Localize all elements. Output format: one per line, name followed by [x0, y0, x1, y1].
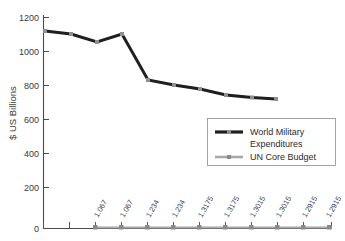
un-data-point — [171, 225, 176, 230]
x-tick-label-7: 1.3015 — [248, 195, 267, 219]
legend-marker-military — [227, 130, 231, 134]
military-data-point — [224, 93, 228, 97]
military-data-point — [120, 32, 124, 36]
y-tick-label-400: 400 — [24, 149, 39, 159]
un-data-point — [249, 225, 254, 230]
y-tick-marks — [44, 18, 50, 229]
un-data-point — [197, 225, 202, 230]
military-data-point — [43, 29, 47, 33]
un-data-point — [327, 225, 332, 230]
x-tick-label-8: 1.3015 — [274, 195, 293, 219]
un-data-point — [301, 225, 306, 230]
series-world-military-expenditures — [43, 29, 278, 101]
y-tick-label-0: 0 — [34, 224, 39, 234]
x-tick-label-3: 1.234 — [144, 198, 161, 219]
un-data-point — [119, 225, 124, 230]
legend-label-military-line2: Expenditures — [250, 139, 303, 149]
line-chart-plot: $ US Billions 1200 1000 800 600 400 200 … — [0, 0, 345, 241]
military-data-point — [198, 87, 202, 91]
x-tick-labels: 1.067 1.067 1.234 1.234 1.3175 1.3175 1.… — [92, 195, 343, 219]
x-tick-label-9: 1.2915 — [300, 195, 319, 219]
y-axis-label: $ US Billions — [7, 86, 18, 140]
military-data-point — [250, 96, 254, 100]
un-data-point — [223, 225, 228, 230]
military-data-point — [274, 97, 278, 101]
chart-legend[interactable]: World Military Expenditures UN Core Budg… — [208, 119, 336, 166]
y-tick-label-200: 200 — [24, 183, 39, 193]
x-tick-label-5: 1.3175 — [196, 195, 215, 219]
un-data-point — [145, 225, 150, 230]
y-tick-label-800: 800 — [24, 81, 39, 91]
x-tick-label-4: 1.234 — [170, 198, 187, 219]
legend-label-un-core-budget: UN Core Budget — [250, 152, 317, 162]
y-tick-label-600: 600 — [24, 115, 39, 125]
military-data-point — [172, 83, 176, 87]
y-tick-label-1200: 1200 — [19, 13, 39, 23]
un-data-point — [275, 225, 280, 230]
chart-container: $ US Billions 1200 1000 800 600 400 200 … — [0, 0, 345, 241]
military-expenditures-line — [45, 31, 276, 99]
x-tick-label-6: 1.3175 — [222, 195, 241, 219]
military-data-point — [146, 78, 150, 82]
x-tick-label-2: 1.067 — [118, 198, 135, 219]
un-data-point — [93, 225, 98, 230]
y-tick-label-1000: 1000 — [19, 47, 39, 57]
military-data-point — [95, 40, 99, 44]
legend-marker-un — [227, 155, 231, 159]
legend-label-military-line1: World Military — [250, 127, 305, 137]
military-data-point — [69, 32, 73, 36]
x-tick-label-1: 1.067 — [92, 198, 109, 219]
x-tick-label-10: 1.2915 — [324, 195, 343, 219]
